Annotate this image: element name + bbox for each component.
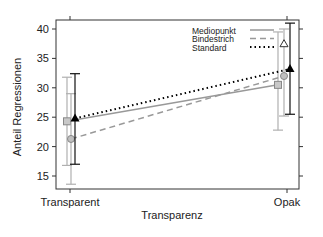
square-marker	[64, 118, 71, 125]
y-axis-label: Anteil Regressionen	[11, 58, 23, 156]
circle-marker	[68, 135, 75, 142]
legend-label: Standard	[192, 43, 227, 53]
plot-frame	[56, 20, 299, 189]
open-triangle-marker	[280, 40, 288, 47]
circle-marker	[281, 73, 288, 80]
y-tick-label: 35	[37, 52, 49, 64]
x-tick-label: Transparent	[41, 196, 100, 208]
y-tick-label: 15	[37, 170, 49, 182]
series-line-mediopunkt	[67, 85, 278, 121]
square-marker	[275, 81, 282, 88]
y-tick-label: 40	[37, 23, 49, 35]
x-axis-label: Transparenz	[141, 209, 202, 221]
y-tick-label: 20	[37, 141, 49, 153]
axes: 152025303540TransparentOpak	[37, 16, 303, 208]
series-line-standard	[75, 69, 290, 118]
triangle-marker	[286, 64, 295, 72]
legend: MediopunktBindestrichStandard	[192, 26, 274, 53]
x-tick-label: Opak	[274, 196, 301, 208]
chart: 152025303540TransparentOpak MediopunktBi…	[0, 0, 323, 237]
y-tick-label: 30	[37, 82, 49, 94]
series-line-bindestrich	[71, 76, 284, 139]
triangle-marker	[71, 113, 80, 121]
y-tick-label: 25	[37, 111, 49, 123]
